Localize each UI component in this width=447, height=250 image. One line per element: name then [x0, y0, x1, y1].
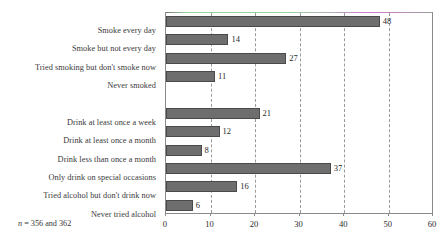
category-label: Drink at least once a month [63, 136, 156, 145]
bar-value-label: 48 [383, 14, 392, 29]
bar-tried-smoking [166, 53, 286, 64]
x-tick [165, 213, 166, 216]
bar-value-label: 12 [223, 124, 232, 139]
category-label: Smoke every day [98, 26, 156, 35]
bar-drink-once-a-month [166, 126, 220, 137]
x-tick-label: 50 [383, 219, 392, 229]
bar-row: 14 [166, 31, 432, 49]
bar-drink-once-a-week [166, 108, 260, 119]
x-tick-label: 40 [339, 219, 348, 229]
x-tick [299, 213, 300, 216]
category-label: Tried smoking but don't smoke now [35, 63, 156, 72]
x-tick [210, 213, 211, 216]
bar-value-label: 16 [240, 179, 249, 194]
bar-drink-less-than-once-a-month [166, 145, 202, 156]
x-tick-label: 30 [294, 219, 303, 229]
footnote-text: = 356 and 362 [22, 219, 71, 228]
bar-value-label: 27 [289, 51, 298, 66]
bar-tried-alcohol [166, 181, 237, 192]
bar-row: 48 [166, 13, 432, 31]
bar-never-tried-alcohol [166, 200, 193, 211]
bar-smoke-not-every-day [166, 34, 228, 45]
category-label: Never smoked [107, 81, 156, 90]
bar-row: 12 [166, 123, 432, 141]
category-label: Drink less than once a month [58, 155, 156, 164]
category-axis-labels: Smoke every day Smoke but not every day … [0, 12, 160, 214]
bar-value-label: 21 [263, 106, 272, 121]
bar-never-smoked [166, 71, 215, 82]
bar-row: 11 [166, 68, 432, 86]
x-tick [388, 213, 389, 216]
bar-value-label: 37 [334, 161, 343, 176]
category-label: Tried alcohol but don't drink now [43, 191, 156, 200]
x-tick [432, 213, 433, 216]
category-label: Drink at least once a week [67, 118, 156, 127]
bar-value-label: 8 [205, 143, 209, 158]
bar-row: 21 [166, 105, 432, 123]
x-axis: 0 10 20 30 40 50 60 [165, 213, 433, 214]
bar-smoke-every-day [166, 16, 380, 27]
bar-row: 27 [166, 50, 432, 68]
bar-value-label: 11 [218, 69, 226, 84]
category-label: Only drink on special occasions [48, 173, 156, 182]
x-tick-label: 20 [250, 219, 259, 229]
bar-row: 16 [166, 178, 432, 196]
plot-area: 48 14 27 11 21 12 [165, 12, 433, 214]
x-tick-label: 10 [205, 219, 214, 229]
x-tick-label: 0 [163, 219, 167, 229]
bar-value-label: 14 [231, 32, 240, 47]
bar-row-spacer [166, 86, 432, 104]
bar-row: 8 [166, 142, 432, 160]
bar-only-special-occasions [166, 163, 331, 174]
x-tick [343, 213, 344, 216]
x-tick [254, 213, 255, 216]
category-label: Never tried alcohol [91, 210, 156, 219]
bars-layer: 48 14 27 11 21 12 [166, 13, 432, 213]
bar-row: 37 [166, 160, 432, 178]
bar-chart-figure: Smoke every day Smoke but not every day … [0, 0, 447, 250]
sample-size-footnote: n = 356 and 362 [18, 219, 71, 229]
category-label: Smoke but not every day [72, 44, 156, 53]
bar-value-label: 6 [196, 198, 200, 213]
x-tick-label: 60 [428, 219, 437, 229]
